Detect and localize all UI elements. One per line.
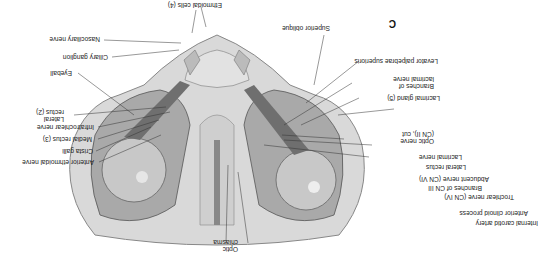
label-line: (CN II), cut	[400, 130, 434, 137]
label-line: Lateral	[36, 116, 64, 123]
label-superior-oblique: Superior oblique	[282, 25, 330, 32]
label-internal-carotid-artery: Internal carotid artery	[476, 220, 538, 227]
label-ciliary-ganglion: Ciliary ganglion	[63, 54, 108, 61]
label-line: Optic	[213, 246, 238, 253]
label-lacrimal-nerve: Lacrimal nerve	[419, 154, 462, 161]
eyeball-shape	[102, 138, 166, 202]
label-medial-rectus-3: Medial rectus (3)	[43, 136, 92, 143]
label-nasociliary-nerve: Nasociliary nerve	[49, 36, 100, 43]
label-infratrochlear-nerve: Infratrochlear nerve	[37, 124, 94, 131]
label-lacrimal-gland-5: Lacrimal gland (5)	[387, 95, 440, 102]
label-trochlear-nerve: Trochlear nerve (CN IV)	[444, 194, 514, 201]
label-lateral-rectus: Lateral rectus	[426, 164, 466, 171]
label-optic-chiasma: Optic chiasma	[213, 238, 238, 253]
eyeball-highlight	[136, 171, 148, 183]
label-lateral-rectus-2: Lateral rectus (2)	[36, 108, 64, 123]
panel-label: C	[389, 18, 396, 29]
label-levator-palpebrae-superioris: Levator palpebrae superioris	[354, 58, 438, 65]
label-line: lacrimal nerve	[393, 75, 434, 82]
label-branches-lacrimal-nerve: Branches of lacrimal nerve	[393, 75, 434, 90]
label-line: Optic nerve	[400, 138, 434, 145]
label-abducent-nerve: Abducent nerve (CN VI)	[419, 176, 489, 183]
label-branches-cn3: Branches of CN III	[428, 185, 482, 192]
label-anterior-clinoid-process: Anterior clinoid process	[459, 210, 528, 217]
label-anterior-ethmoidal-nerve: Anterior ethmoidal nerve	[22, 159, 94, 166]
label-line: Branches of	[393, 83, 434, 90]
crista-galli-shape	[214, 140, 220, 225]
label-ethmoidal-cells-4: Ethmoidal cells (4)	[168, 2, 222, 9]
label-crista-galli: Crista galli	[62, 148, 93, 155]
label-optic-nerve-cut: Optic nerve (CN II), cut	[400, 130, 434, 145]
label-eyeball: Eyeball	[50, 70, 72, 77]
label-line: chiasma	[213, 238, 238, 245]
label-line: rectus (2)	[36, 108, 64, 115]
eyeball-shape	[276, 150, 336, 210]
eyeball-highlight	[308, 181, 320, 193]
